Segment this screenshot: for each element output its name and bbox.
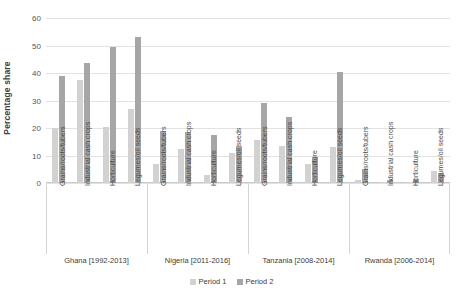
bar[interactable] (153, 164, 159, 183)
y-tick-label-50: 50 (32, 41, 41, 50)
category-label-cell: Industrial cash crops (374, 184, 399, 252)
legend-label: Period 2 (246, 277, 274, 286)
legend-label: Period 1 (199, 277, 227, 286)
chart-legend: Period 1Period 2 (0, 277, 463, 286)
category-label: Industrial cash crops (387, 122, 394, 186)
category-label-cell: Horticulture (299, 184, 324, 252)
legend-swatch-icon (237, 279, 243, 285)
category-label-group: Grains/roots/tubersIndustrial cash crops… (147, 184, 248, 252)
country-group-labels: Ghana [1992-2013]Nigeria [2011-2016]Tanz… (46, 252, 450, 270)
category-label-cell: Legumes/oil seeds (122, 184, 147, 252)
category-label-group: Grains/roots/tubersIndustrial cash crops… (248, 184, 349, 252)
category-label: Grains/roots/tubers (362, 126, 369, 186)
bar[interactable] (178, 149, 184, 183)
legend-item[interactable]: Period 2 (237, 277, 274, 286)
bar[interactable] (406, 182, 412, 183)
category-label: Grains/roots/tubers (261, 126, 268, 186)
bar[interactable] (279, 146, 285, 183)
category-label-cell: Grains/roots/tubers (147, 184, 172, 252)
bar[interactable] (77, 80, 83, 183)
category-label: Legumes/oil seeds (134, 128, 141, 186)
category-label: Horticulture (210, 150, 217, 186)
country-label: Nigeria [2011-2016] (147, 252, 248, 270)
category-label: Industrial cash crops (84, 122, 91, 186)
category-label: Legumes/oil seeds (336, 128, 343, 186)
grouped-bar-chart: Percentage share 0102030405060 Grains/ro… (0, 0, 463, 301)
y-axis-title: Percentage share (2, 28, 14, 168)
category-label: Legumes/oil seeds (437, 128, 444, 186)
category-label-cell: Horticulture (97, 184, 122, 252)
bar[interactable] (103, 127, 109, 183)
category-label-cell: Grains/roots/tubers (248, 184, 273, 252)
category-label-cell: Grains/roots/tubers (349, 184, 374, 252)
y-tick-label-20: 20 (32, 124, 41, 133)
category-label-group: Grains/roots/tubersIndustrial cash crops… (46, 184, 147, 252)
bar[interactable] (380, 182, 386, 183)
category-label-cell: Horticulture (198, 184, 223, 252)
category-label-cell: Legumes/oil seeds (425, 184, 450, 252)
bar[interactable] (431, 171, 437, 183)
bar[interactable] (229, 153, 235, 183)
country-label: Rwanda [2006-2014] (349, 252, 450, 270)
category-label-cell: Industrial cash crops (71, 184, 96, 252)
y-tick-label-40: 40 (32, 69, 41, 78)
y-tick-label-10: 10 (32, 151, 41, 160)
category-label: Industrial cash crops (185, 122, 192, 186)
bar[interactable] (254, 140, 260, 183)
category-label: Horticulture (311, 150, 318, 186)
category-label: Industrial cash crops (286, 122, 293, 186)
country-label: Tanzania [2008-2014] (248, 252, 349, 270)
bar[interactable] (305, 164, 311, 183)
category-label: Grains/roots/tubers (160, 126, 167, 186)
category-label: Horticulture (109, 150, 116, 186)
country-label: Ghana [1992-2013] (46, 252, 147, 270)
legend-swatch-icon (190, 279, 196, 285)
legend-item[interactable]: Period 1 (190, 277, 227, 286)
bar[interactable] (128, 109, 134, 183)
category-label-cell: Grains/roots/tubers (46, 184, 71, 252)
category-label-cell: Legumes/oil seeds (324, 184, 349, 252)
category-label: Legumes/oil seeds (235, 128, 242, 186)
category-label-cell: Horticulture (400, 184, 425, 252)
category-label-group: Grains/roots/tubersIndustrial cash crops… (349, 184, 450, 252)
bar[interactable] (330, 147, 336, 183)
category-label: Grains/roots/tubers (59, 126, 66, 186)
bar[interactable] (52, 128, 58, 183)
y-tick-label-30: 30 (32, 96, 41, 105)
bar[interactable] (204, 175, 210, 183)
bar[interactable] (355, 180, 361, 183)
category-label: Horticulture (412, 150, 419, 186)
category-label-cell: Legumes/oil seeds (223, 184, 248, 252)
category-label-cell: Industrial cash crops (273, 184, 298, 252)
y-tick-label-60: 60 (32, 14, 41, 23)
y-tick-label-0: 0 (37, 179, 41, 188)
category-label-cell: Industrial cash crops (172, 184, 197, 252)
